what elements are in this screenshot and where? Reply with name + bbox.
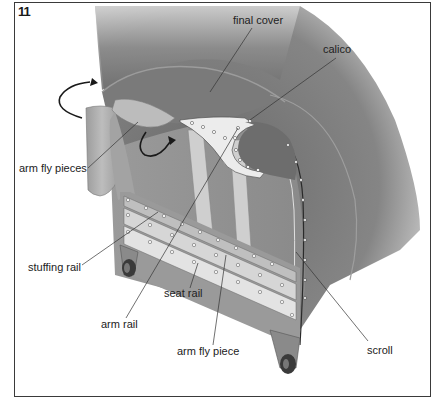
label-scroll: scroll (367, 344, 393, 356)
label-stuffing-rail: stuffing rail (28, 261, 81, 273)
label-arm-fly-piece: arm fly piece (177, 345, 239, 357)
armchair-illustration (0, 0, 436, 402)
castor-front-right (270, 330, 300, 374)
label-seat-rail: seat rail (164, 287, 203, 299)
label-calico: calico (323, 43, 351, 55)
label-final-cover: final cover (233, 14, 283, 26)
figure-number: 11 (18, 4, 30, 19)
label-arm-rail: arm rail (101, 318, 138, 330)
label-arm-fly-pieces: arm fly pieces (19, 162, 87, 174)
